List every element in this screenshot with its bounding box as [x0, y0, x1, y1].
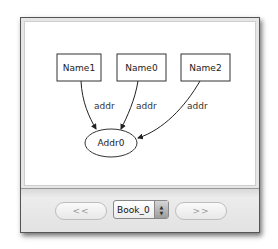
stepper-arrows-icon[interactable]: ▲▼ [154, 201, 168, 218]
node-name0[interactable]: Name0 [117, 54, 166, 81]
node-label: Name2 [189, 63, 221, 73]
instance-select-value: Book_0 [114, 205, 154, 215]
instance-select[interactable]: Book_0 ▲▼ [113, 200, 169, 219]
node-label: Name0 [125, 63, 158, 73]
navigation-footer: << Book_0 ▲▼ >> [21, 188, 259, 232]
node-label: Name1 [63, 63, 95, 73]
edge-label: addr [94, 101, 115, 111]
node-name1[interactable]: Name1 [57, 54, 101, 81]
previous-button[interactable]: << [55, 202, 107, 220]
node-addr0[interactable]: Addr0 [85, 129, 137, 157]
graph-diagram: addr addr addr Name1 Name0 Name2 Addr0 [25, 22, 257, 187]
node-name2[interactable]: Name2 [181, 54, 230, 81]
graph-canvas: addr addr addr Name1 Name0 Name2 Addr0 [24, 21, 256, 186]
edge-label: addr [136, 101, 157, 111]
visualizer-window: addr addr addr Name1 Name0 Name2 Addr0 <… [20, 17, 260, 233]
node-label: Addr0 [98, 138, 125, 148]
edge-label: addr [187, 101, 208, 111]
next-button[interactable]: >> [175, 202, 227, 220]
